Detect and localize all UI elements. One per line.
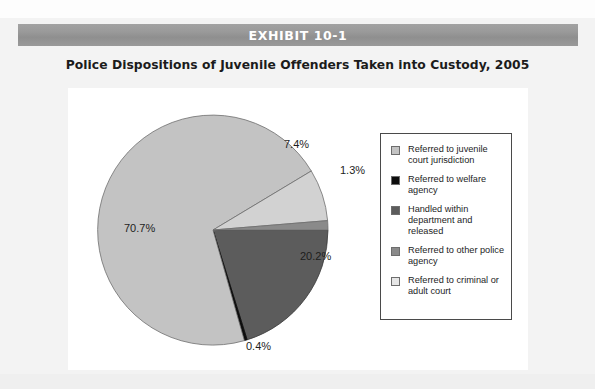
legend-item-welfare-agency[interactable]: Referred to welfare agency: [391, 174, 505, 197]
pie-label-0-4: 0.4%: [246, 340, 271, 352]
legend-swatch-icon: [391, 247, 400, 256]
legend-item-label: Referred to criminal or adult court: [408, 275, 505, 298]
pie-label-20-2: 20.2%: [300, 250, 331, 262]
legend-item-juvenile-court[interactable]: Referred to juvenile court jurisdiction: [391, 144, 505, 167]
legend-swatch-icon: [391, 176, 400, 185]
chart-panel: 70.7% 7.4% 1.3% 20.2% 0.4% Referred to j…: [68, 88, 528, 370]
exhibit-header-bar: EXHIBIT 10-1: [18, 24, 578, 46]
chart-title: Police Dispositions of Juvenile Offender…: [0, 58, 595, 72]
legend-item-label: Referred to welfare agency: [408, 174, 505, 197]
legend-item-label: Referred to juvenile court jurisdiction: [408, 144, 505, 167]
pie-label-70-7: 70.7%: [124, 222, 155, 234]
legend-swatch-icon: [391, 206, 400, 215]
chart-legend: Referred to juvenile court jurisdiction …: [380, 133, 512, 320]
legend-item-label: Handled within department and released: [408, 204, 505, 238]
pie-label-1-3: 1.3%: [340, 164, 365, 176]
exhibit-page: EXHIBIT 10-1 Police Dispositions of Juve…: [0, 0, 595, 389]
pie-label-7-4: 7.4%: [284, 138, 309, 150]
legend-item-label: Referred to other police agency: [408, 245, 505, 268]
page-bottom-margin: [0, 374, 595, 389]
page-top-margin: [0, 0, 595, 18]
legend-item-other-police-agency[interactable]: Referred to other police agency: [391, 245, 505, 268]
exhibit-number-label: EXHIBIT 10-1: [249, 28, 348, 43]
legend-item-criminal-or-adult-court[interactable]: Referred to criminal or adult court: [391, 275, 505, 298]
legend-item-handled-within-department[interactable]: Handled within department and released: [391, 204, 505, 238]
legend-swatch-icon: [391, 277, 400, 286]
legend-swatch-icon: [391, 146, 400, 155]
